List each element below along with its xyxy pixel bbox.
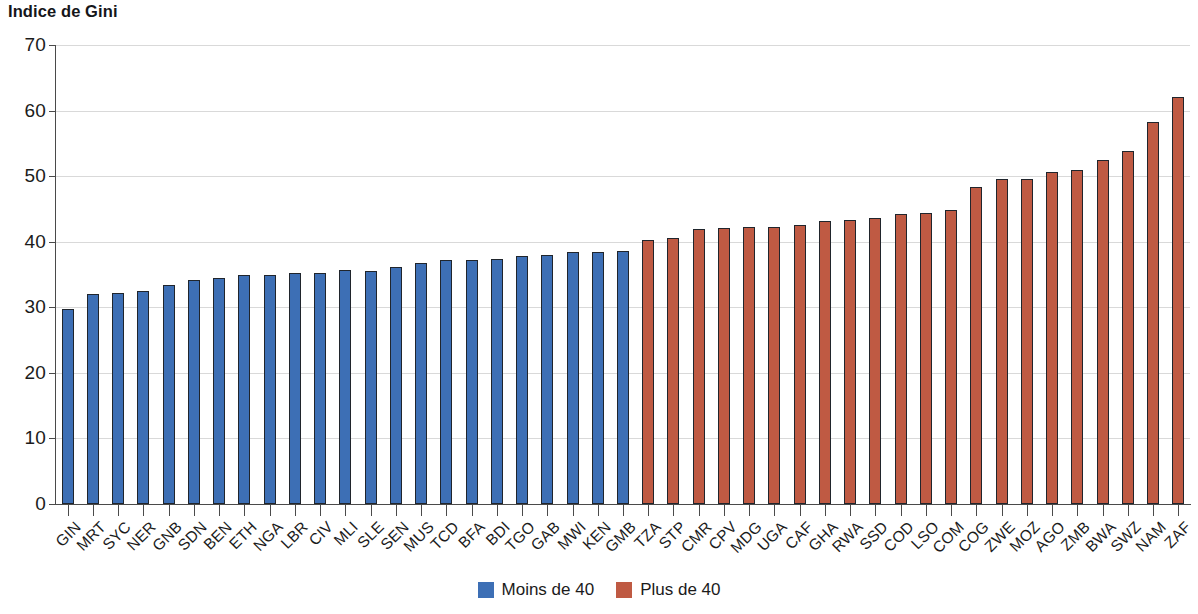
bar-SEN[interactable] <box>390 267 402 504</box>
x-tick-mark-LSO <box>926 505 927 516</box>
x-tick-mark-MDG <box>749 505 750 516</box>
bar-SDN[interactable] <box>188 280 200 504</box>
y-tick-label-40: 40 <box>4 231 46 253</box>
x-tick-mark-AGO <box>1052 505 1053 516</box>
x-tick-mark-CIV <box>320 505 321 516</box>
x-tick-mark-COG <box>976 505 977 516</box>
bar-TGO[interactable] <box>516 256 528 504</box>
bar-KEN[interactable] <box>592 252 604 504</box>
y-tick-label-30: 30 <box>4 296 46 318</box>
y-tick-label-0: 0 <box>4 493 46 515</box>
x-tick-mark-SYC <box>118 505 119 516</box>
x-tick-mark-NER <box>143 505 144 516</box>
legend-swatch-low <box>478 582 494 598</box>
bar-BWA[interactable] <box>1097 160 1109 504</box>
bar-SWZ[interactable] <box>1122 151 1134 504</box>
x-tick-mark-MUS <box>421 505 422 516</box>
y-tick-label-10: 10 <box>4 427 46 449</box>
x-tick-mark-MLI <box>345 505 346 516</box>
chart-legend: Moins de 40Plus de 40 <box>0 580 1198 600</box>
bar-BFA[interactable] <box>466 260 478 504</box>
x-tick-mark-SSD <box>875 505 876 516</box>
x-tick-mark-SEN <box>396 505 397 516</box>
bar-TCD[interactable] <box>440 260 452 504</box>
bar-GNB[interactable] <box>163 285 175 504</box>
x-tick-mark-SLE <box>371 505 372 516</box>
x-tick-mark-GHA <box>825 505 826 516</box>
x-tick-mark-ZMB <box>1077 505 1078 516</box>
legend-item-low[interactable]: Moins de 40 <box>478 580 595 600</box>
bar-CAF[interactable] <box>794 225 806 504</box>
bar-ETH[interactable] <box>238 275 250 505</box>
x-tick-mark-GNB <box>169 505 170 516</box>
bar-CIV[interactable] <box>314 273 326 504</box>
bar-COG[interactable] <box>970 187 982 504</box>
x-tick-mark-NAM <box>1153 505 1154 516</box>
bar-MOZ[interactable] <box>1021 179 1033 504</box>
bar-NER[interactable] <box>137 291 149 504</box>
legend-label-high: Plus de 40 <box>640 580 720 600</box>
bar-GHA[interactable] <box>819 221 831 504</box>
bar-SLE[interactable] <box>365 271 377 504</box>
x-tick-mark-GIN <box>68 505 69 516</box>
bar-TZA[interactable] <box>642 240 654 504</box>
bar-GIN[interactable] <box>62 309 74 504</box>
bar-LSO[interactable] <box>920 213 932 504</box>
x-tick-mark-TGO <box>522 505 523 516</box>
x-tick-mark-CAF <box>800 505 801 516</box>
x-tick-mark-CMR <box>699 505 700 516</box>
bars-container <box>55 45 1191 504</box>
bar-AGO[interactable] <box>1046 172 1058 504</box>
x-tick-mark-COM <box>951 505 952 516</box>
y-tick-label-50: 50 <box>4 165 46 187</box>
bar-ZAF[interactable] <box>1172 97 1184 504</box>
legend-swatch-high <box>616 582 632 598</box>
x-tick-mark-ZWE <box>1002 505 1003 516</box>
bar-STP[interactable] <box>667 238 679 504</box>
bar-GAB[interactable] <box>541 255 553 504</box>
bar-BEN[interactable] <box>213 278 225 504</box>
x-axis-tick-marks <box>55 505 1191 517</box>
bar-NAM[interactable] <box>1147 122 1159 504</box>
x-tick-mark-ETH <box>244 505 245 516</box>
bar-MDG[interactable] <box>743 227 755 504</box>
x-tick-mark-STP <box>673 505 674 516</box>
bar-MUS[interactable] <box>415 263 427 504</box>
bar-COD[interactable] <box>895 214 907 504</box>
legend-item-high[interactable]: Plus de 40 <box>616 580 720 600</box>
x-tick-mark-CPV <box>724 505 725 516</box>
bar-BDI[interactable] <box>491 259 503 504</box>
bar-ZWE[interactable] <box>996 179 1008 504</box>
bar-GMB[interactable] <box>617 251 629 504</box>
x-tick-mark-MWI <box>573 505 574 516</box>
bar-SYC[interactable] <box>112 293 124 504</box>
x-tick-mark-COD <box>901 505 902 516</box>
bar-MLI[interactable] <box>339 270 351 504</box>
bar-ZMB[interactable] <box>1071 170 1083 504</box>
y-axis-tick-labels: 010203040506070 <box>0 0 46 614</box>
x-tick-mark-TZA <box>648 505 649 516</box>
x-tick-mark-TCD <box>446 505 447 516</box>
bar-NGA[interactable] <box>264 275 276 505</box>
bar-CMR[interactable] <box>693 229 705 504</box>
x-tick-mark-NGA <box>270 505 271 516</box>
x-tick-mark-BFA <box>472 505 473 516</box>
y-tick-label-20: 20 <box>4 362 46 384</box>
bar-MWI[interactable] <box>567 252 579 504</box>
bar-MRT[interactable] <box>87 294 99 504</box>
y-tick-label-70: 70 <box>4 34 46 56</box>
bar-UGA[interactable] <box>768 227 780 504</box>
x-tick-mark-LBR <box>295 505 296 516</box>
bar-SSD[interactable] <box>869 218 881 504</box>
bar-LBR[interactable] <box>289 273 301 504</box>
bar-COM[interactable] <box>945 210 957 504</box>
bar-RWA[interactable] <box>844 220 856 504</box>
x-tick-mark-KEN <box>598 505 599 516</box>
x-tick-mark-MOZ <box>1027 505 1028 516</box>
x-tick-mark-UGA <box>774 505 775 516</box>
x-axis-tick-labels: GINMRTSYCNERGNBSDNBENETHNGALBRCIVMLISLES… <box>55 518 1191 576</box>
x-tick-mark-SWZ <box>1128 505 1129 516</box>
x-tick-mark-MRT <box>93 505 94 516</box>
bar-CPV[interactable] <box>718 228 730 504</box>
y-tick-label-60: 60 <box>4 100 46 122</box>
